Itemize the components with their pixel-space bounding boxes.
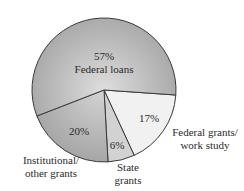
pie-slices — [32, 18, 176, 162]
institutional-name-line1: Institutional/ — [10, 154, 92, 167]
pie-chart: 57% Federal loans 17% Federal grants/ wo… — [0, 0, 244, 191]
state-grants-name-label: State grants — [108, 161, 148, 187]
federal-grants-name-line2: work study — [166, 139, 244, 152]
state-grants-pct-label: 6% — [106, 139, 128, 152]
state-grants-name-line1: State — [108, 161, 148, 174]
state-grants-name-line2: grants — [108, 174, 148, 187]
federal-loans-name: Federal loans — [68, 63, 140, 76]
federal-loans-pct: 57% — [68, 50, 140, 63]
institutional-pct-label: 20% — [66, 125, 92, 138]
federal-grants-name-line1: Federal grants/ — [166, 126, 244, 139]
federal-grants-pct-label: 17% — [136, 112, 162, 125]
institutional-name-label: Institutional/ other grants — [10, 154, 92, 180]
federal-grants-name-label: Federal grants/ work study — [166, 126, 244, 152]
federal-loans-label: 57% Federal loans — [68, 50, 140, 76]
institutional-name-line2: other grants — [10, 167, 92, 180]
